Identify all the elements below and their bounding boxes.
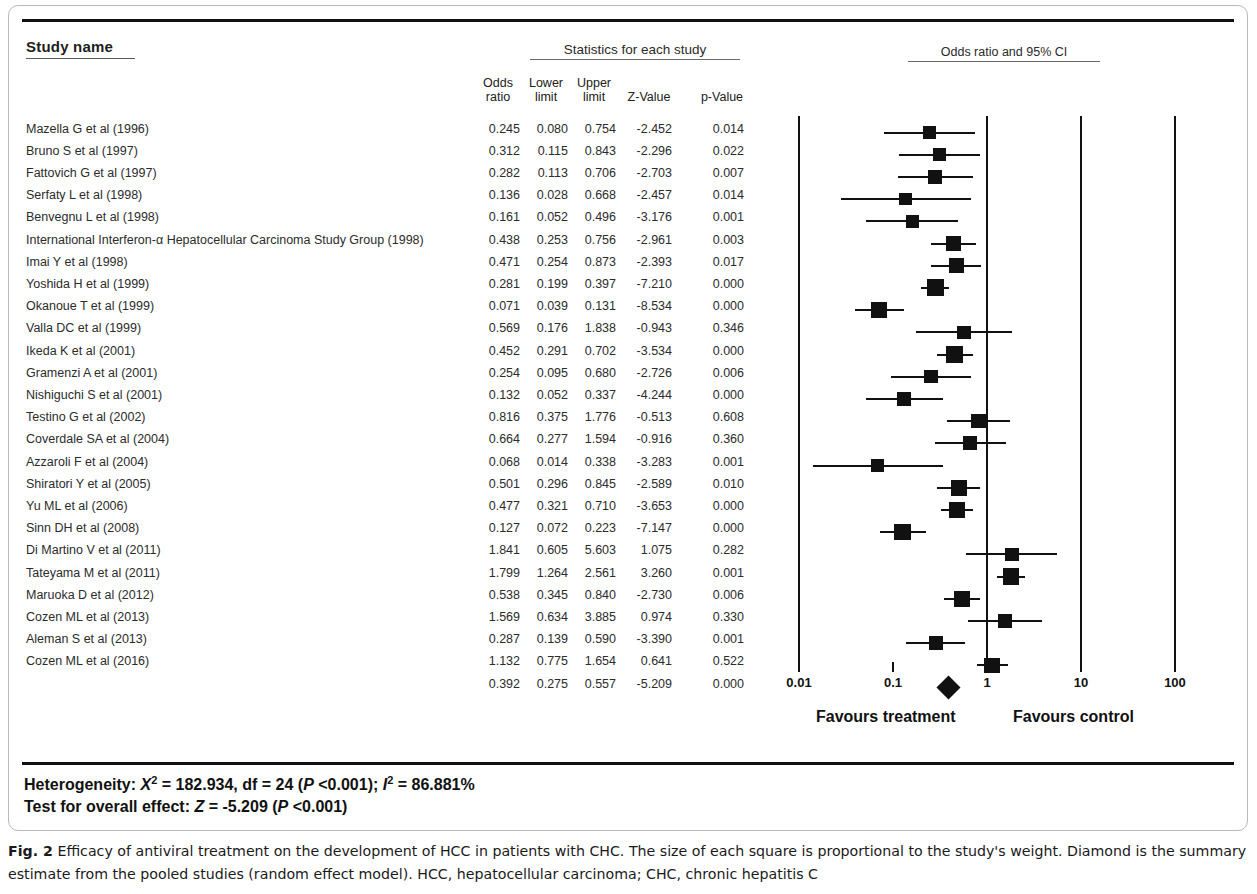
p-symbol: P [303,776,314,793]
lower-limit-cell: 0.775 [524,654,568,668]
study-name-cell: Coverdale SA et al (2004) [26,432,169,446]
odds-ratio-cell: 0.501 [476,477,520,491]
odds-ratio-cell: 0.287 [476,632,520,646]
table-row: Benvegnu L et al (1998)0.1610.0520.496-3… [0,210,1240,232]
table-row: Yoshida H et al (1999)0.2810.1990.397-7.… [0,277,1240,299]
effect-p-value: <0.001) [288,798,347,815]
z-value-cell: -3.283 [626,455,672,469]
z-value-cell: -3.390 [626,632,672,646]
z-value-cell: -2.393 [626,255,672,269]
p-value-cell: 0.007 [700,166,744,180]
upper-limit-cell: 0.557 [572,677,616,691]
lower-limit-cell: 0.052 [524,210,568,224]
upper-limit-cell: 0.845 [572,477,616,491]
z-value-cell: -3.653 [626,499,672,513]
odds-ratio-cell: 1.569 [476,610,520,624]
upper-limit-cell: 0.680 [572,366,616,380]
lower-limit-cell: 0.345 [524,588,568,602]
p-value-cell: 0.000 [700,677,744,691]
p-value-cell: 0.000 [700,521,744,535]
lower-limit-cell: 0.375 [524,410,568,424]
heterogeneity-prefix: Heterogeneity: [24,776,140,793]
upper-limit-cell: 0.131 [572,299,616,313]
upper-limit-cell: 0.337 [572,388,616,402]
upper-limit-cell: 0.706 [572,166,616,180]
lower-limit-cell: 0.014 [524,455,568,469]
table-row: Serfaty L et al (1998)0.1360.0280.668-2.… [0,188,1240,210]
table-row: 0.3920.2750.557-5.2090.000 [0,677,1240,699]
odds-ratio-cell: 0.816 [476,410,520,424]
heterogeneity-statistic: Heterogeneity: X2 = 182.934, df = 24 (P … [24,774,475,794]
z-value-cell: -2.296 [626,144,672,158]
study-name-cell: Yoshida H et al (1999) [26,277,149,291]
odds-ratio-cell: 1.841 [476,543,520,557]
odds-ratio-cell: 0.254 [476,366,520,380]
heterogeneity-value: = 182.934, df = 24 ( [157,776,303,793]
table-row: Sinn DH et al (2008)0.1270.0720.223-7.14… [0,521,1240,543]
lower-limit-cell: 0.113 [524,166,568,180]
study-name-cell: Yu ML et al (2006) [26,499,128,513]
p-value-cell: 0.001 [700,210,744,224]
z-value-cell: -2.703 [626,166,672,180]
upper-limit-cell: 2.561 [572,566,616,580]
study-name-cell: Di Martino V et al (2011) [26,543,161,557]
figure-caption-text: Efficacy of antiviral treatment on the d… [8,843,1246,882]
odds-ratio-cell: 0.438 [476,233,520,247]
upper-limit-cell: 0.590 [572,632,616,646]
upper-limit-cell: 0.710 [572,499,616,513]
z-value-cell: -0.943 [626,321,672,335]
z-value-cell: -3.176 [626,210,672,224]
p-value-cell: 0.006 [700,588,744,602]
upper-limit-cell: 0.756 [572,233,616,247]
study-name-cell: Okanoue T et al (1999) [26,299,154,313]
study-name-cell: Tateyama M et al (2011) [26,566,160,580]
study-name-cell: Cozen ML et al (2016) [26,654,149,668]
lower-limit-cell: 0.139 [524,632,568,646]
odds-ratio-cell: 0.538 [476,588,520,602]
upper-limit-cell: 0.338 [572,455,616,469]
upper-limit-cell: 0.840 [572,588,616,602]
table-row: Valla DC et al (1999)0.5690.1761.838-0.9… [0,321,1240,343]
lower-limit-cell: 0.296 [524,477,568,491]
table-row: Bruno S et al (1997)0.3120.1150.843-2.29… [0,144,1240,166]
study-name-cell: Benvegnu L et al (1998) [26,210,159,224]
column-header-upper-limit: Upper limit [572,76,616,104]
study-name-cell: Fattovich G et al (1997) [26,166,157,180]
z-symbol: Z [194,798,204,815]
table-row: Cozen ML et al (2013)1.5690.6343.8850.97… [0,610,1240,632]
odds-ratio-cell: 0.127 [476,521,520,535]
z-value-cell: 3.260 [626,566,672,580]
p-value-cell: 0.000 [700,499,744,513]
statistics-group-header: Statistics for each study [530,42,740,60]
table-row: Fattovich G et al (1997)0.2820.1130.706-… [0,166,1240,188]
lower-limit-cell: 0.052 [524,388,568,402]
table-row: Azzaroli F et al (2004)0.0680.0140.338-3… [0,455,1240,477]
z-value-cell: -2.589 [626,477,672,491]
table-row: Maruoka D et al (2012)0.5380.3450.840-2.… [0,588,1240,610]
study-name-cell: Azzaroli F et al (2004) [26,455,148,469]
z-value-cell: -7.147 [626,521,672,535]
lower-limit-cell: 0.176 [524,321,568,335]
odds-ratio-cell: 0.132 [476,388,520,402]
table-row: Di Martino V et al (2011)1.8410.6055.603… [0,543,1240,565]
table-row: Mazella G et al (1996)0.2450.0800.754-2.… [0,122,1240,144]
z-value-cell: -0.513 [626,410,672,424]
upper-limit-cell: 1.838 [572,321,616,335]
plot-group-header: Odds ratio and 95% CI [908,45,1100,62]
lower-limit-cell: 0.072 [524,521,568,535]
lower-limit-cell: 0.253 [524,233,568,247]
z-value-cell: 0.974 [626,610,672,624]
table-row: Ikeda K et al (2001)0.4520.2910.702-3.53… [0,344,1240,366]
effect-p-symbol: P [278,798,289,815]
upper-limit-cell: 0.397 [572,277,616,291]
p-value-cell: 0.000 [700,388,744,402]
z-value-cell: -2.452 [626,122,672,136]
figure-label: Fig. 2 [8,843,53,859]
column-header-lower-limit: Lower limit [524,76,568,104]
lower-limit-cell: 0.275 [524,677,568,691]
p-value-cell: 0.001 [700,566,744,580]
z-value-cell: -7.210 [626,277,672,291]
z-value-cell: -2.961 [626,233,672,247]
upper-limit-cell: 1.594 [572,432,616,446]
table-row: Tateyama M et al (2011)1.7991.2642.5613.… [0,566,1240,588]
